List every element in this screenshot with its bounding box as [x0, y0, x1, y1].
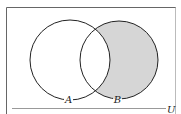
set-label-b: B: [113, 94, 121, 105]
circle-a: [30, 20, 110, 100]
set-label-a: A: [64, 94, 72, 105]
universe-label: U: [167, 104, 176, 114]
venn-diagram: A B U: [0, 0, 181, 114]
